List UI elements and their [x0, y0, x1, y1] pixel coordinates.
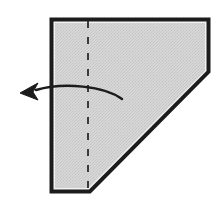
paper-folding-figure: Paper folding diagram	[0, 0, 222, 207]
fold-arrow-head-icon	[20, 83, 38, 100]
paper-face	[55, 23, 205, 188]
figure-canvas	[0, 0, 222, 207]
